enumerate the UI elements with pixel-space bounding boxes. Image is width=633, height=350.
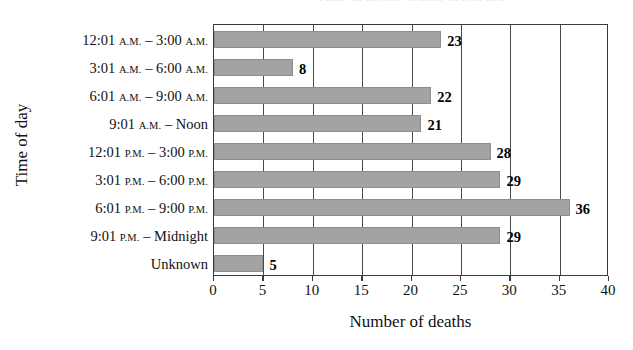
y-axis-tick-label: 6:01 P.M. – 9:00 P.M. (22, 201, 208, 216)
x-axis-tick-label: 10 (292, 282, 332, 299)
x-axis-tick (213, 276, 214, 281)
meridiem-text: A.M. (185, 64, 208, 75)
x-axis: 0510152025303540 (213, 276, 608, 306)
y-axis-tick-label: 12:01 A.M. – 3:00 A.M. (22, 33, 208, 48)
bar-value-label: 5 (269, 258, 276, 273)
bar-chart-figure: Time of death: traffic accidents Time of… (0, 0, 633, 350)
bar (214, 143, 491, 160)
gridline (560, 25, 561, 275)
x-axis-tick-label: 20 (391, 282, 431, 299)
meridiem-text: P.M. (188, 204, 208, 215)
x-axis-tick-label: 25 (440, 282, 480, 299)
x-axis-tick-label: 15 (341, 282, 381, 299)
y-axis-tick-label: Unknown (22, 257, 208, 272)
x-axis-tick-label: 30 (489, 282, 529, 299)
y-axis-tick-labels: 12:01 A.M. – 3:00 A.M.3:01 A.M. – 6:00 A… (22, 24, 208, 276)
bar-value-label: 23 (447, 34, 462, 49)
x-axis-tick (460, 276, 461, 281)
meridiem-text: P.M. (188, 148, 208, 159)
x-axis-tick (312, 276, 313, 281)
meridiem-text: A.M. (185, 92, 208, 103)
meridiem-text: A.M. (119, 92, 142, 103)
bar (214, 87, 431, 104)
meridiem-text: P.M. (125, 176, 145, 187)
bar-value-label: 29 (506, 174, 521, 189)
bar-value-label: 36 (576, 202, 591, 217)
x-axis-title: Number of deaths (213, 312, 608, 332)
meridiem-text: A.M. (119, 36, 142, 47)
bar (214, 255, 263, 272)
x-axis-tick (509, 276, 510, 281)
plot-area: 2382221282936295 (213, 24, 608, 276)
y-axis-tick-label: 6:01 A.M. – 9:00 A.M. (22, 89, 208, 104)
bar (214, 59, 293, 76)
x-axis-tick (559, 276, 560, 281)
y-axis-tick-label: 9:01 P.M. – Midnight (22, 229, 208, 244)
meridiem-text: A.M. (119, 64, 142, 75)
x-axis-tick-label: 35 (539, 282, 579, 299)
x-axis-tick (411, 276, 412, 281)
bar (214, 31, 441, 48)
y-axis-tick-label: 9:01 A.M. – Noon (22, 117, 208, 132)
meridiem-text: P.M. (125, 148, 145, 159)
x-axis-tick-label: 40 (588, 282, 628, 299)
y-axis-tick-label: 3:01 P.M. – 6:00 P.M. (22, 173, 208, 188)
x-axis-tick (608, 276, 609, 281)
bar-value-label: 21 (427, 118, 442, 133)
chart-title: Time of death: traffic accidents (213, 0, 608, 1)
meridiem-text: A.M. (185, 36, 208, 47)
bar-value-label: 29 (506, 230, 521, 245)
x-axis-tick (361, 276, 362, 281)
meridiem-text: A.M. (139, 120, 162, 131)
bar-value-label: 8 (299, 62, 306, 77)
y-axis-tick-label: 12:01 P.M. – 3:00 P.M. (22, 145, 208, 160)
meridiem-text: P.M. (125, 204, 145, 215)
meridiem-text: P.M. (120, 232, 140, 243)
y-axis-tick-label: 3:01 A.M. – 6:00 A.M. (22, 61, 208, 76)
bar (214, 171, 500, 188)
bar-value-label: 28 (497, 146, 512, 161)
x-axis-tick-label: 5 (242, 282, 282, 299)
x-axis-tick (262, 276, 263, 281)
meridiem-text: P.M. (188, 176, 208, 187)
bar-value-label: 22 (437, 90, 452, 105)
bar (214, 115, 421, 132)
x-axis-tick-label: 0 (193, 282, 233, 299)
bar (214, 227, 500, 244)
bar (214, 199, 570, 216)
